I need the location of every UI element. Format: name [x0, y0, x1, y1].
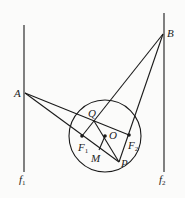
label-b: B [167, 27, 174, 39]
label-m: M [90, 152, 101, 164]
label-f2-line: f2 [159, 173, 166, 187]
point-f1-dot [80, 134, 84, 138]
label-p: P [120, 157, 128, 169]
label-q: Q [88, 107, 96, 119]
label-f2: F2 [127, 139, 139, 153]
label-o: O [109, 129, 117, 141]
label-f1-line: f1 [19, 173, 26, 187]
diagram-svg: A B Q O F1 F2 M P f1 f2 [0, 0, 185, 198]
segment-b-f1 [82, 34, 163, 136]
label-a: A [13, 87, 21, 99]
segment-b-p [119, 34, 163, 162]
geometry-diagram: A B Q O F1 F2 M P f1 f2 [0, 0, 185, 198]
label-f1: F1 [77, 141, 89, 155]
point-f2-dot [127, 133, 131, 137]
segment-o-m [99, 136, 105, 150]
point-o-dot [103, 134, 107, 138]
